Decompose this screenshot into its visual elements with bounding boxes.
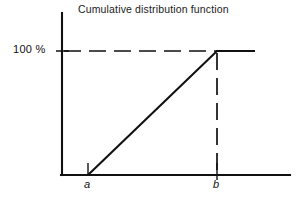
cdf-curve [88,51,255,175]
y-axis-tick-label-100-percent: 100 % [13,44,46,55]
chart-title: Cumulative distribution function [78,4,229,15]
x-axis-tick-label-a: a [84,179,90,190]
plot-area [0,0,298,200]
x-axis-tick-label-b: b [213,179,219,190]
cumulative-distribution-function-figure: Cumulative distribution function 100 % a… [0,0,298,200]
